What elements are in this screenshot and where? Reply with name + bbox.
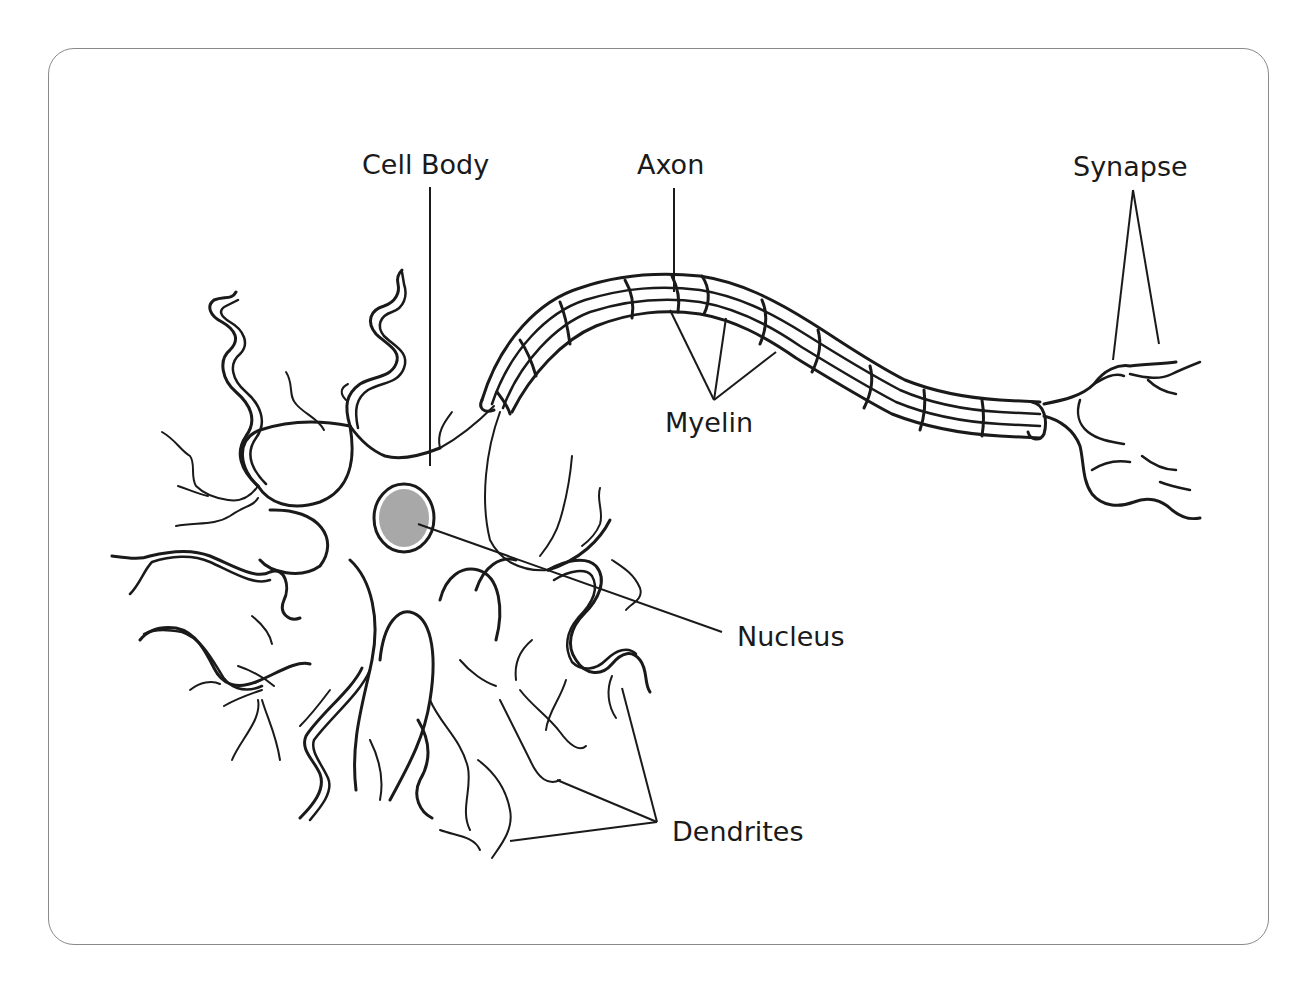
label-dendrites: Dendrites xyxy=(672,816,804,847)
label-synapse-group: Synapse xyxy=(1073,151,1188,360)
myelin-leader-line-1 xyxy=(670,310,714,400)
myelin-leader-line-2 xyxy=(714,318,726,400)
nucleus-leader-line xyxy=(418,524,722,632)
dendrites-shape xyxy=(112,270,650,858)
axon-myelin-sheath xyxy=(481,274,1046,439)
label-myelin: Myelin xyxy=(665,407,753,438)
label-synapse: Synapse xyxy=(1073,151,1188,182)
label-myelin-group: Myelin xyxy=(665,310,776,438)
dendrites-leader-line-3 xyxy=(510,822,657,841)
neuron-diagram: Cell Body Axon Synapse Myelin Nucleus De… xyxy=(0,0,1314,993)
dendrites-leader-line-2 xyxy=(557,780,657,822)
dendrites-leader-line-1 xyxy=(622,688,657,822)
nucleus-shape xyxy=(374,484,434,552)
synapse-terminals xyxy=(1044,362,1200,519)
synapse-leader-line-right xyxy=(1133,190,1159,344)
label-axon-group: Axon xyxy=(637,149,704,292)
label-nucleus-group: Nucleus xyxy=(418,524,844,652)
label-dendrites-group: Dendrites xyxy=(510,688,804,847)
label-nucleus: Nucleus xyxy=(737,621,844,652)
label-cell-body: Cell Body xyxy=(362,149,489,180)
synapse-leader-line-left xyxy=(1113,190,1133,360)
myelin-leader-line-3 xyxy=(714,352,776,400)
label-axon: Axon xyxy=(637,149,704,180)
